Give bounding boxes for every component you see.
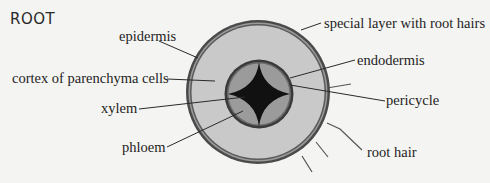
root-hair-2 — [316, 142, 328, 157]
label-root-hair: root hair — [367, 145, 417, 160]
label-pericycle: pericycle — [386, 93, 439, 108]
label-xylem: xylem — [101, 101, 137, 116]
root-hair-1 — [327, 123, 362, 150]
label-cortex: cortex of parenchyma cells — [12, 71, 169, 86]
label-epidermis: epidermis — [119, 29, 176, 44]
diagram-title: ROOT — [10, 10, 55, 28]
root-hair-3 — [302, 156, 312, 172]
label-special-layer: special layer with root hairs — [324, 16, 485, 31]
root-hair-4 — [327, 84, 351, 88]
leader-special-layer — [301, 23, 321, 30]
label-endodermis: endodermis — [357, 53, 425, 68]
label-phloem: phloem — [122, 140, 166, 155]
